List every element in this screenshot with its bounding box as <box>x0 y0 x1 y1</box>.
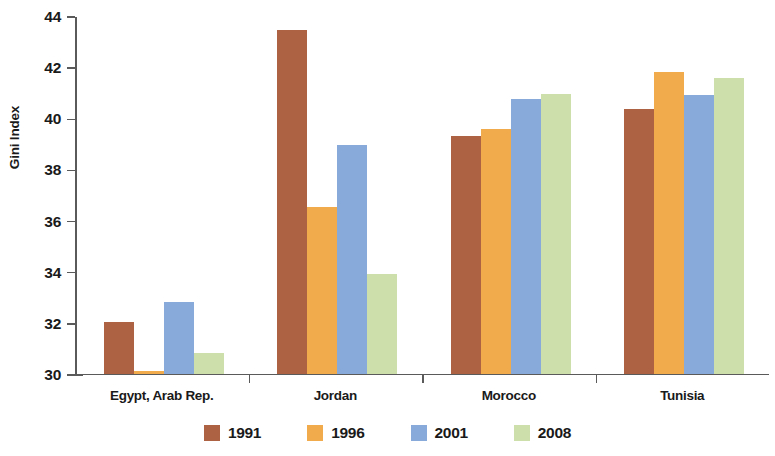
legend-item[interactable]: 1996 <box>307 424 364 442</box>
bar <box>337 145 367 374</box>
bar <box>194 353 224 373</box>
bar <box>277 30 307 374</box>
bar <box>511 99 541 374</box>
legend-swatch-icon <box>307 425 323 441</box>
bar-group <box>104 17 224 374</box>
bar <box>654 72 684 374</box>
legend-item[interactable]: 1991 <box>204 424 261 442</box>
gini-index-bar-chart: Gini Index 3032343638404244 Egypt, Arab … <box>0 0 775 456</box>
y-tick-label: 30 <box>44 366 61 384</box>
legend-item[interactable]: 2001 <box>411 424 468 442</box>
x-axis-category-label: Egypt, Arab Rep. <box>75 388 249 403</box>
legend-swatch-icon <box>204 425 220 441</box>
bar <box>104 322 134 373</box>
bar-group <box>624 17 744 374</box>
bar-group <box>277 17 397 374</box>
bar-group <box>451 17 571 374</box>
y-tick-label: 44 <box>44 8 61 26</box>
bar <box>684 95 714 374</box>
group-separator <box>422 375 424 383</box>
legend-label: 1991 <box>228 424 261 442</box>
y-tick-34: 34 <box>67 272 75 274</box>
y-tick-label: 42 <box>44 59 61 77</box>
y-tick-label: 34 <box>44 264 61 282</box>
plot-area: 3032343638404244 <box>75 17 769 375</box>
legend-label: 1996 <box>331 424 364 442</box>
x-axis-category-label: Morocco <box>422 388 596 403</box>
bar <box>451 136 481 374</box>
legend-label: 2001 <box>435 424 468 442</box>
y-tick-38: 38 <box>67 170 75 172</box>
y-tick-label: 38 <box>44 161 61 179</box>
bar <box>624 109 654 374</box>
bar <box>134 371 164 374</box>
y-tick-label: 40 <box>44 110 61 128</box>
chart-legend: 1991199620012008 <box>0 424 775 442</box>
y-tick-40: 40 <box>67 119 75 121</box>
legend-item[interactable]: 2008 <box>514 424 571 442</box>
bar <box>481 129 511 373</box>
legend-swatch-icon <box>411 425 427 441</box>
bar <box>541 94 571 374</box>
group-separator <box>249 375 251 383</box>
bar <box>164 302 194 374</box>
y-axis-title: Gini Index <box>7 58 22 218</box>
y-tick-32: 32 <box>67 323 75 325</box>
y-axis-line <box>75 17 77 375</box>
group-separator <box>596 375 598 383</box>
bar <box>307 207 337 373</box>
y-tick-42: 42 <box>67 67 75 69</box>
y-tick-30: 30 <box>67 374 83 376</box>
bar <box>714 78 744 373</box>
legend-label: 2008 <box>538 424 571 442</box>
y-tick-label: 32 <box>44 315 61 333</box>
x-axis-category-label: Jordan <box>249 388 423 403</box>
y-tick-label: 36 <box>44 213 61 231</box>
legend-swatch-icon <box>514 425 530 441</box>
bar <box>367 274 397 374</box>
y-tick-36: 36 <box>67 221 75 223</box>
x-axis-category-label: Tunisia <box>596 388 770 403</box>
y-tick-44: 44 <box>67 16 75 18</box>
